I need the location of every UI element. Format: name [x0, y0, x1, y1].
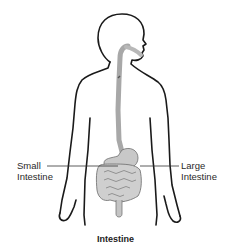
label-small-intestine: Small Intestine: [17, 160, 53, 182]
label-small-intestine-line2: Intestine: [17, 171, 53, 182]
label-small-intestine-line1: Small: [17, 160, 53, 171]
intestines: [96, 164, 141, 217]
label-large-intestine-line1: Large: [181, 160, 217, 171]
label-large-intestine-line2: Intestine: [181, 171, 217, 182]
diagram-caption: Intestine: [0, 234, 231, 244]
anatomy-illustration: [0, 0, 231, 249]
esophagus: [118, 46, 141, 152]
label-large-intestine: Large Intestine: [181, 160, 217, 182]
